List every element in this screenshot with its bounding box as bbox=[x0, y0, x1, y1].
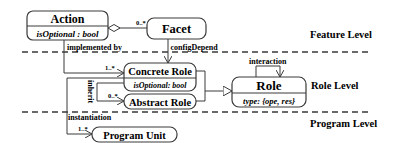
instantiation-label: instantiation bbox=[68, 113, 112, 122]
role-class: Role type: {ope, res} bbox=[232, 77, 306, 107]
concrete-role-name: Concrete Role bbox=[128, 66, 192, 77]
program-unit-class: Program Unit bbox=[92, 127, 177, 142]
action-attr: isOptional : bool bbox=[36, 29, 99, 39]
inherit-multiplicity: 0..* bbox=[108, 92, 118, 99]
instantiation-multiplicity: 1..* bbox=[78, 125, 88, 132]
metamodel-diagram: Feature Level Role Level Program Level A… bbox=[0, 0, 402, 143]
interaction-edge bbox=[256, 66, 280, 77]
inherit-label: inherit bbox=[86, 80, 95, 103]
config-depend-label: configDepend bbox=[171, 43, 219, 52]
role-attr: type: {ope, res} bbox=[243, 96, 295, 106]
action-class: Action isOptional : bool bbox=[27, 11, 108, 40]
role-name: Role bbox=[256, 78, 282, 93]
abstract-role-name: Abstract Role bbox=[129, 97, 191, 108]
generalization-edge-concrete bbox=[196, 71, 205, 91]
program-unit-name: Program Unit bbox=[103, 130, 166, 141]
generalization-edge-abstract bbox=[196, 91, 205, 101]
implemented-by-label: implemented by bbox=[67, 43, 122, 52]
abstract-role-class: Abstract Role bbox=[124, 94, 196, 109]
implemented-by-multiplicity: 1..* bbox=[105, 64, 115, 71]
concrete-role-class: Concrete Role isOptional: bool bbox=[124, 63, 196, 91]
feature-level-label: Feature Level bbox=[310, 29, 372, 40]
role-level-label: Role Level bbox=[311, 80, 359, 91]
action-facet-multiplicity: 0..* bbox=[136, 19, 146, 26]
program-level-label: Program Level bbox=[310, 118, 377, 129]
concrete-role-attr: isOptional: bool bbox=[133, 81, 187, 90]
interaction-label: interaction bbox=[249, 57, 287, 66]
facet-name: Facet bbox=[162, 22, 192, 36]
facet-class: Facet bbox=[147, 18, 206, 39]
action-name: Action bbox=[51, 12, 85, 26]
